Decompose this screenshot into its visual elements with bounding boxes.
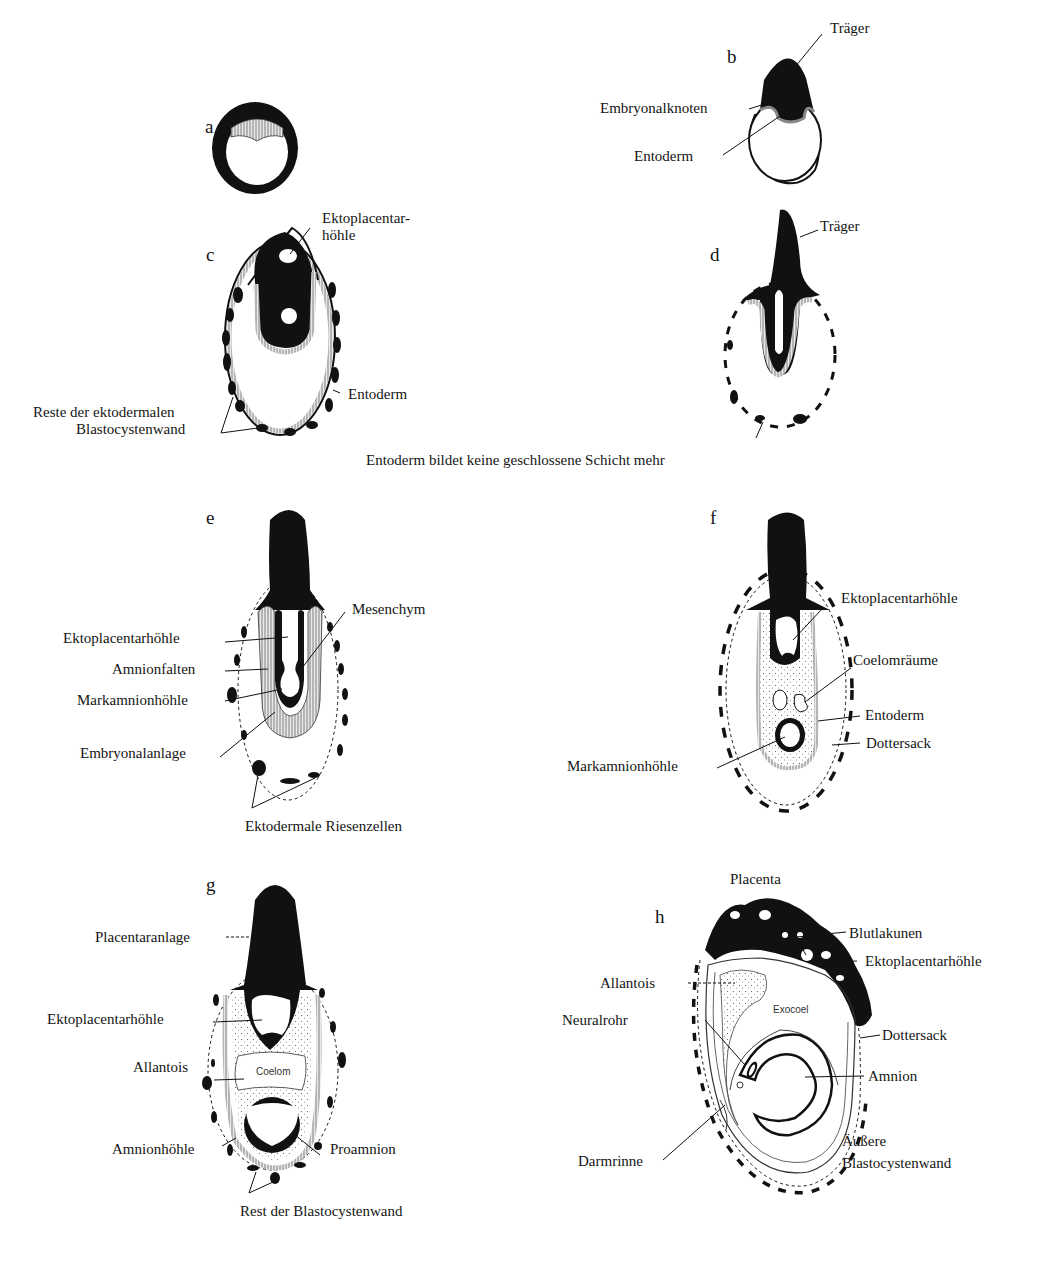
figure-d-letter: d <box>710 244 720 266</box>
figure-g-leader-rest <box>249 1172 273 1193</box>
figure-d-leader-entoderm <box>756 422 763 438</box>
figure-g-label-allantois: Allantois <box>133 1059 188 1076</box>
figure-c-label-reste-1: Reste der ektodermalen <box>33 404 175 421</box>
figure-f-label-markamnionhoehle: Markamnionhöhle <box>567 758 678 775</box>
figure-b-leader-traeger <box>795 34 822 67</box>
figure-h-leader-dottersack <box>860 1035 880 1038</box>
figure-d-drawing <box>725 210 835 438</box>
figure-f-drawing <box>717 513 860 812</box>
cd-caption: Entoderm bildet keine geschlossene Schic… <box>366 452 665 469</box>
figure-e-label-mesenchym: Mesenchym <box>352 601 425 618</box>
figure-f-label-dottersack: Dottersack <box>866 735 931 752</box>
figure-d-leader-traeger <box>800 230 818 237</box>
figure-c-leader-reste-1 <box>221 397 233 433</box>
figure-f-leader-dottersack <box>832 743 860 745</box>
figure-c-leader-reste-2 <box>221 428 258 433</box>
figure-h-leader-darmrinne <box>663 1105 725 1160</box>
figure-g-label-coelom: Coelom <box>256 1066 290 1077</box>
figure-h-label-amnion: Amnion <box>868 1068 917 1085</box>
figure-e-leader-embryonalanlage <box>220 712 275 757</box>
embryo-development-plate: a b Träger Embryonalknoten Entoderm c Ek… <box>0 0 1055 1263</box>
figure-c-label-reste-2: Blastocystenwand <box>76 421 185 438</box>
figure-b-label-traeger: Träger <box>830 20 869 37</box>
figure-f-label-coelomraeume: Coelomräume <box>853 652 938 669</box>
figure-h-label-darmrinne: Darmrinne <box>578 1153 643 1170</box>
figure-e-label-markamnionhoehle: Markamnionhöhle <box>77 692 188 709</box>
figure-c-label-ektoplacentar-2: höhle <box>322 227 355 244</box>
figure-b-letter: b <box>727 46 737 68</box>
figure-g-label-rest: Rest der Blastocystenwand <box>240 1203 402 1220</box>
figure-g-letter: g <box>206 874 216 896</box>
figure-c-label-ektoplacentar-1: Ektoplacentar- <box>322 210 410 227</box>
figure-h-label-dottersack: Dottersack <box>882 1027 947 1044</box>
figure-f-letter: f <box>710 507 716 529</box>
figure-h-label-allantois: Allantois <box>600 975 655 992</box>
figure-g-drawing <box>202 885 346 1193</box>
figure-b-drawing <box>723 34 822 183</box>
figure-h-label-ektoplacentar: Ektoplacentarhöhle <box>865 953 982 970</box>
figure-h-label-blutlakunen: Blutlakunen <box>849 925 922 942</box>
figure-e-letter: e <box>206 507 214 529</box>
figure-e-label-amnionfalten: Amnionfalten <box>112 661 195 678</box>
figure-h-letter: h <box>655 906 665 928</box>
figure-h-label-aeussere-1: Äußere <box>842 1133 886 1150</box>
figure-f-leader-entoderm <box>818 716 860 721</box>
figure-b-label-embryonalknoten: Embryonalknoten <box>600 100 707 117</box>
figure-h-label-neuralrohr: Neuralrohr <box>562 1012 628 1029</box>
figure-a-drawing <box>212 102 298 194</box>
figure-h-label-exocoel: Exocoel <box>773 1004 809 1015</box>
figure-d-label-traeger: Träger <box>820 218 859 235</box>
figure-c-letter: c <box>206 244 214 266</box>
figure-b-label-entoderm: Entoderm <box>634 148 693 165</box>
figure-f-label-ektoplacentar: Ektoplacentarhöhle <box>841 590 958 607</box>
figure-h-label-placenta: Placenta <box>730 871 781 888</box>
figure-g-label-ektoplacentar: Ektoplacentarhöhle <box>47 1011 164 1028</box>
figure-e-label-ektoplacentar: Ektoplacentarhöhle <box>63 630 180 647</box>
figure-g-label-proamnion: Proamnion <box>330 1141 396 1158</box>
figure-e-label-embryonalanlage: Embryonalanlage <box>80 745 186 762</box>
figure-f-label-entoderm: Entoderm <box>865 707 924 724</box>
figure-e-label-riesenzellen: Ektodermale Riesenzellen <box>245 818 402 835</box>
figure-c-drawing <box>221 228 341 436</box>
figure-a-letter: a <box>205 116 213 138</box>
figure-e-drawing <box>220 510 348 808</box>
figure-c-label-entoderm: Entoderm <box>348 386 407 403</box>
figure-h-label-aeussere-2: Blastocystenwand <box>842 1155 951 1172</box>
figure-g-label-placentaranlage: Placentaranlage <box>95 929 190 946</box>
figure-g-label-amnionhoehle: Amnionhöhle <box>112 1141 195 1158</box>
